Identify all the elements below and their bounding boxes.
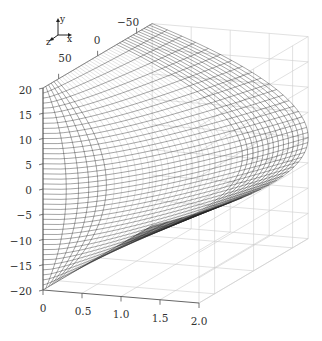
- y-tick-label: 5: [2, 160, 32, 171]
- y-tick-label: 20: [2, 85, 32, 96]
- x-tick-label: 1.5: [148, 313, 172, 324]
- y-tick-label: −5: [2, 210, 32, 221]
- triad-y-label: y: [60, 15, 65, 24]
- y-tick-label: −20: [2, 286, 32, 297]
- surface-plot: [0, 0, 322, 341]
- x-tick-label: 0: [31, 303, 55, 314]
- axes-lines: [39, 24, 199, 308]
- triad-z-label: z: [46, 38, 51, 47]
- z-tick-label: 50: [53, 53, 77, 64]
- axis-triad: y x z: [46, 15, 76, 45]
- y-tick-label: −10: [2, 236, 32, 247]
- y-tick-label: −15: [2, 261, 32, 272]
- y-tick-label: 15: [2, 110, 32, 121]
- z-tick-label: −50: [116, 17, 140, 28]
- x-tick-label: 1.0: [109, 309, 133, 320]
- x-tick-label: 2.0: [187, 316, 211, 327]
- y-tick-label: 10: [2, 135, 32, 146]
- surface-mesh: [43, 24, 308, 290]
- z-tick-label: 0: [85, 35, 109, 46]
- triad-x-label: x: [67, 35, 72, 44]
- x-tick-label: 0.5: [71, 306, 95, 317]
- y-tick-label: 0: [2, 185, 32, 196]
